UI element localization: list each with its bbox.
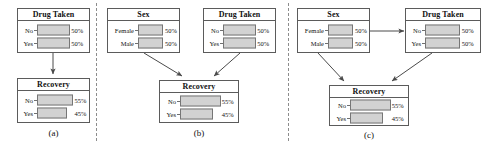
bar-label: Male <box>108 40 135 47</box>
bar-track: 45% <box>180 108 238 120</box>
bar-row: Yes 45% <box>160 108 238 120</box>
bar-track: 50% <box>425 24 480 36</box>
bar <box>37 25 70 36</box>
bar <box>425 25 460 36</box>
bar <box>37 95 73 106</box>
bar-row: Female 50% <box>108 24 179 36</box>
bar-row: Yes 45% <box>330 112 408 124</box>
edge-c-sex-to-recovery <box>318 53 344 81</box>
node-recovery-c[interactable]: Recovery No 55% Yes 45% <box>329 85 409 126</box>
bar-label: No <box>406 27 422 34</box>
bar-row: Female 50% <box>298 24 369 36</box>
node-title: Recovery <box>330 86 408 98</box>
bar-row: Male 50% <box>108 37 179 49</box>
bar-label: No <box>18 27 34 34</box>
bar-track: 50% <box>223 37 275 49</box>
node-plot: No 55% Yes 45% <box>330 98 408 125</box>
node-drug-taken-c[interactable]: Drug Taken No 50% Yes 50% <box>405 8 481 53</box>
node-title: Recovery <box>18 79 89 91</box>
bar-track: 55% <box>350 99 408 111</box>
bar-track: 45% <box>37 107 89 119</box>
bar-value: 50% <box>355 40 367 47</box>
bar-value: 50% <box>462 27 474 34</box>
bar-label: No <box>18 97 34 104</box>
bar-value: 55% <box>74 97 86 104</box>
bar-row: Yes 45% <box>18 107 89 119</box>
panel-divider-1 <box>96 3 97 141</box>
node-plot: No 55% Yes 45% <box>160 93 238 122</box>
panel-caption-c: (c) <box>329 130 409 140</box>
bar <box>138 25 163 36</box>
bar-label: Female <box>298 27 325 34</box>
bar <box>328 25 353 36</box>
bar <box>328 38 353 49</box>
bar-label: Yes <box>160 111 177 118</box>
bar-track: 45% <box>350 112 408 124</box>
bar <box>350 100 391 111</box>
panel-divider-2 <box>288 3 289 141</box>
bar <box>180 96 221 107</box>
node-sex-c[interactable]: Sex Female 50% Male 50% <box>297 8 370 53</box>
panel-caption-a: (a) <box>17 128 90 138</box>
node-recovery-a[interactable]: Recovery No 55% Yes 45% <box>17 78 90 123</box>
node-drug-taken-a[interactable]: Drug Taken No 50% Yes 50% <box>17 8 90 53</box>
node-plot: Female 50% Male 50% <box>108 21 179 52</box>
bar-row: No 55% <box>18 94 89 106</box>
node-plot: Female 50% Male 50% <box>298 21 369 52</box>
bar-track: 50% <box>328 24 369 36</box>
bar <box>425 38 460 49</box>
bar-value: 55% <box>392 102 404 109</box>
bar-value: 45% <box>392 115 404 122</box>
bar-value: 45% <box>222 111 234 118</box>
node-title: Drug Taken <box>204 9 275 21</box>
bar-row: No 55% <box>330 99 408 111</box>
bar-track: 50% <box>138 24 179 36</box>
bar-label: Yes <box>18 110 34 117</box>
bar-label: Female <box>108 27 135 34</box>
figure-canvas: Drug Taken No 50% Yes 50% Recovery <box>0 0 492 150</box>
bar-label: Yes <box>18 40 34 47</box>
bar-value: 50% <box>165 27 177 34</box>
bar-value: 50% <box>462 40 474 47</box>
node-sex-b[interactable]: Sex Female 50% Male 50% <box>107 8 180 53</box>
bar-label: No <box>160 98 177 105</box>
bar-track: 50% <box>328 37 369 49</box>
edge-c-drug-to-recovery <box>392 53 432 81</box>
bar-label: No <box>204 27 220 34</box>
edge-b-sex-to-recovery <box>144 53 182 76</box>
node-title: Drug Taken <box>18 9 89 21</box>
bar-row: Yes 50% <box>18 37 89 49</box>
bar-row: Yes 50% <box>204 37 275 49</box>
bar-value: 45% <box>74 110 86 117</box>
bar-row: No 50% <box>406 24 480 36</box>
bar-label: Yes <box>406 40 422 47</box>
bar-value: 55% <box>222 98 234 105</box>
bar-row: No 50% <box>204 24 275 36</box>
bar-label: Yes <box>330 115 347 122</box>
node-title: Recovery <box>160 81 238 93</box>
bar-row: No 55% <box>160 95 238 107</box>
node-plot: No 50% Yes 50% <box>204 21 275 52</box>
node-plot: No 55% Yes 45% <box>18 91 89 122</box>
node-title: Sex <box>108 9 179 21</box>
bar-row: No 50% <box>18 24 89 36</box>
node-title: Sex <box>298 9 369 21</box>
node-recovery-b[interactable]: Recovery No 55% Yes 45% <box>159 80 239 123</box>
node-plot: No 50% Yes 50% <box>18 21 89 52</box>
node-drug-taken-b[interactable]: Drug Taken No 50% Yes 50% <box>203 8 276 53</box>
bar-value: 50% <box>71 40 83 47</box>
bar-row: Yes 50% <box>406 37 480 49</box>
node-plot: No 50% Yes 50% <box>406 21 480 52</box>
bar-track: 50% <box>425 37 480 49</box>
bar-label: Male <box>298 40 325 47</box>
bar-value: 50% <box>165 40 177 47</box>
bar-label: Yes <box>204 40 220 47</box>
bar-track: 50% <box>37 24 89 36</box>
bar <box>180 109 213 120</box>
bar-track: 50% <box>138 37 179 49</box>
node-title: Drug Taken <box>406 9 480 21</box>
bar-track: 50% <box>37 37 89 49</box>
bar-row: Male 50% <box>298 37 369 49</box>
bar <box>223 38 256 49</box>
bar <box>223 25 256 36</box>
